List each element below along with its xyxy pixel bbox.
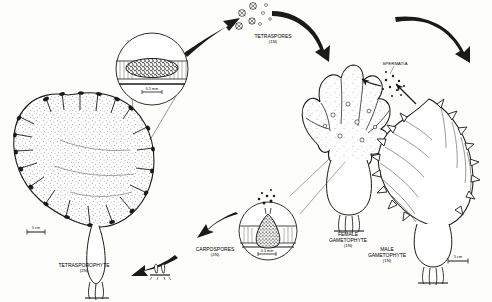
male-gametophyte-scale-text: 5 cm [444, 255, 472, 259]
label-cystocarp-scale: 0.5 mm [251, 249, 283, 253]
tetrasporophyte-scale-bar [27, 230, 45, 235]
spermatia-illustration [382, 71, 405, 97]
arrow-cystocarp-to-carpospores [197, 212, 238, 238]
male-gametophyte-ploidy: (1N) [341, 258, 433, 263]
cystocarp-scale-text: 0.5 mm [251, 249, 283, 253]
arrow-to-male-gametophyte [395, 16, 470, 63]
male-gametophyte-scale-bar [448, 259, 468, 264]
spermatia-name: SPERMATIA [368, 61, 422, 66]
label-male-gametophyte-scale: 5 cm [444, 255, 472, 259]
label-male-gametophyte: MALE GAMETOPHYTE (1N) [341, 246, 433, 263]
tetrasporophyte-ploidy: (2N) [26, 268, 142, 273]
label-tetrasporophyte: TETRASPOROPHYTE (2N) [26, 262, 142, 273]
arrow-sorus-to-tetraspores [184, 18, 240, 57]
tetraspores-ploidy: (1N) [242, 39, 304, 44]
arrow-male-to-spermatia [396, 84, 416, 104]
life-cycle-figure: TETRASPORES (1N) FEMALE GAMETOPHYTE (1N)… [0, 0, 492, 302]
label-spermatia: SPERMATIA [368, 61, 422, 66]
tetraspores-illustration [236, 3, 272, 30]
tetrasporangial-sorus-scale-text: 0.5 mm [136, 87, 168, 91]
tetrasporophyte-scale-text: 5 cm [22, 226, 50, 230]
female-gametophyte-illustration [290, 65, 390, 233]
label-tetrasporophyte-scale: 5 cm [22, 226, 50, 230]
carpospores-ploidy: (2N) [178, 252, 252, 257]
label-tetraspores: TETRASPORES (1N) [242, 33, 304, 44]
label-tetrasporangial-sorus-scale: 0.5 mm [136, 87, 168, 91]
label-carpospores: CARPOSPORES (2N) [178, 246, 252, 257]
